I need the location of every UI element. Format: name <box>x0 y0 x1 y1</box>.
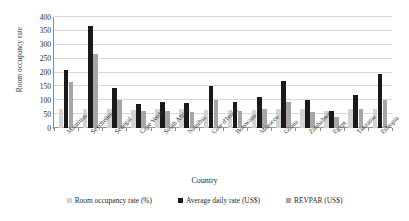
bar <box>300 109 305 128</box>
y-axis-title: Room occupancy rate <box>15 0 24 120</box>
bar <box>257 97 262 128</box>
bar-group <box>199 17 223 128</box>
bar <box>59 109 64 128</box>
bar <box>209 86 214 128</box>
y-axis-tick-labels: 050100150200250300350400 <box>26 12 51 133</box>
bar <box>64 70 69 128</box>
y-tick-label-150: 150 <box>40 82 51 91</box>
bar-group <box>295 17 319 128</box>
y-tick-label-250: 250 <box>40 54 51 63</box>
bar <box>88 26 93 128</box>
legend-item: REVPAR (US$) <box>286 196 342 205</box>
bar <box>136 104 141 128</box>
y-tick-label-400: 400 <box>40 13 51 22</box>
x-axis-category-labels: MauritiusSeychellesSenegalCape VerdeSout… <box>54 130 392 172</box>
bars-layer <box>54 17 392 128</box>
y-tick-label-300: 300 <box>40 40 51 49</box>
plot-area <box>54 17 392 128</box>
bar <box>348 109 353 128</box>
legend-swatch <box>178 198 183 203</box>
bar <box>93 54 98 128</box>
y-tick-label-350: 350 <box>40 26 51 35</box>
y-tick-label-200: 200 <box>40 68 51 77</box>
bar <box>305 100 310 128</box>
y-tick-label-100: 100 <box>40 96 51 105</box>
x-tick-mark <box>392 128 393 131</box>
bar-group <box>368 17 392 128</box>
chart-legend: Room occupancy rate (%)Average daily rat… <box>0 196 409 205</box>
legend-item: Room occupancy rate (%) <box>67 196 152 205</box>
legend-swatch <box>286 198 291 203</box>
legend-label: Room occupancy rate (%) <box>75 196 152 205</box>
bar <box>112 88 117 128</box>
bar <box>353 95 358 128</box>
y-tick-label-50: 50 <box>44 110 52 119</box>
legend-swatch <box>67 198 72 203</box>
legend-label: REVPAR (US$) <box>294 196 342 205</box>
bar-group <box>54 17 78 128</box>
bar-chart: Room occupancy rate 05010015020025030035… <box>0 0 409 221</box>
y-tick-label-0: 0 <box>47 124 51 133</box>
legend-label: Average daily rate (US$) <box>186 196 260 205</box>
bar-group <box>344 17 368 128</box>
bar <box>281 81 286 128</box>
bar-group <box>126 17 150 128</box>
legend-item: Average daily rate (US$) <box>178 196 260 205</box>
bar-group <box>320 17 344 128</box>
bar-group <box>271 17 295 128</box>
x-axis-title: Country <box>0 176 409 185</box>
bar <box>378 74 383 128</box>
